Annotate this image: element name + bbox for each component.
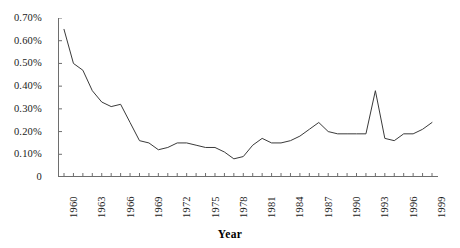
- x-tick-label: 1999: [436, 196, 447, 218]
- x-tick-label: 1993: [379, 196, 390, 218]
- series-line-value: [64, 29, 432, 158]
- y-tick-label: 0.60%: [0, 36, 52, 46]
- x-tick-label: 1984: [294, 196, 305, 218]
- x-tick-label: 1966: [125, 196, 136, 218]
- x-tick-label: 1975: [210, 196, 221, 218]
- y-axis-tick-labels: 0.70%0.60%0.50%0.40%0.30%0.20%0.10%0: [0, 0, 52, 185]
- x-tick-label: 1987: [323, 196, 334, 218]
- y-tick-label: 0.10%: [0, 149, 52, 159]
- x-tick-label: 1981: [266, 196, 277, 218]
- x-axis-title: Year: [0, 228, 460, 240]
- x-tick-label: 1996: [408, 196, 419, 218]
- line-chart: 0.70%0.60%0.50%0.40%0.30%0.20%0.10%0 196…: [0, 0, 460, 248]
- x-tick-label: 1990: [351, 196, 362, 218]
- y-tick-label: 0.50%: [0, 58, 52, 68]
- axis-group: [58, 18, 438, 177]
- y-tick-label: 0: [0, 172, 52, 182]
- y-tick-label: 0.40%: [0, 81, 52, 91]
- x-axis-tick-labels: 1960196319661969197219751978198119841987…: [58, 182, 448, 227]
- y-tick-label: 0.30%: [0, 104, 52, 114]
- x-tick-label: 1963: [96, 196, 107, 218]
- y-tick-label: 0.70%: [0, 13, 52, 23]
- y-tick-label: 0.20%: [0, 127, 52, 137]
- x-tick-label: 1969: [153, 196, 164, 218]
- plot-area: [58, 18, 438, 177]
- x-tick-label: 1960: [68, 196, 79, 218]
- plot-svg: [58, 18, 438, 177]
- x-tick-label: 1972: [181, 196, 192, 218]
- x-tick-label: 1978: [238, 196, 249, 218]
- data-series-group: [64, 29, 432, 158]
